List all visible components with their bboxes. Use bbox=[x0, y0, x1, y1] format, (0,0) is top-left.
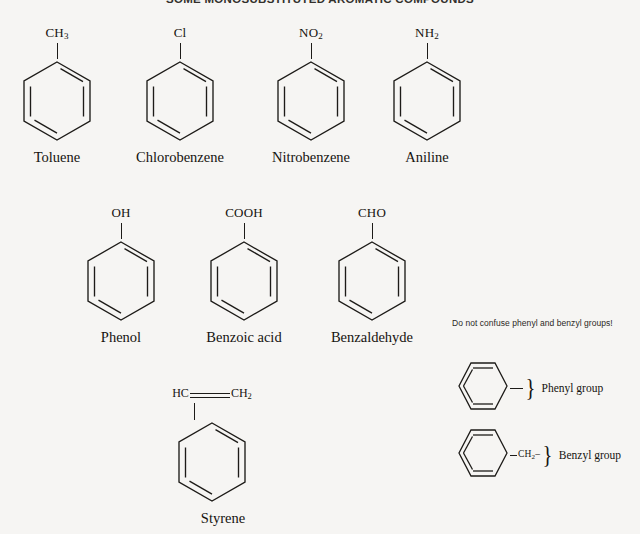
substituent-label-benzaldehyde: CHO bbox=[312, 206, 432, 222]
molecule-toluene: CH3 Toluene bbox=[0, 26, 117, 166]
group-phenyl: } Phenyl group bbox=[456, 361, 603, 415]
benzene-ring-icon bbox=[456, 428, 510, 478]
phenyl-group-label: Phenyl group bbox=[539, 382, 603, 394]
benzene-ring-icon bbox=[275, 59, 347, 143]
molecule-nitrobenzene: NO2 Nitrobenzene bbox=[251, 26, 371, 166]
benzene-ring-styrene bbox=[152, 420, 272, 504]
molecule-name-nitrobenzene: Nitrobenzene bbox=[251, 149, 371, 166]
benzene-ring-icon bbox=[336, 239, 408, 323]
vinyl-group: HC CH2 bbox=[152, 387, 272, 402]
molecule-name-benzoic-acid: Benzoic acid bbox=[184, 329, 304, 346]
benzyl-group-label: Benzyl group bbox=[557, 449, 621, 461]
molecule-benzaldehyde: CHO Benzaldehyde bbox=[312, 206, 432, 346]
bond-stem bbox=[194, 403, 195, 420]
benzene-ring-icon bbox=[456, 361, 510, 411]
phenyl-bond bbox=[510, 388, 523, 389]
molecule-phenol: OH Phenol bbox=[61, 206, 181, 346]
benzene-ring-phenol bbox=[61, 239, 181, 323]
bond-stem bbox=[244, 223, 245, 239]
molecule-name-toluene: Toluene bbox=[0, 149, 117, 166]
molecule-name-styrene: Styrene bbox=[174, 510, 272, 527]
benzene-ring-icon bbox=[21, 59, 93, 143]
substituent-label-aniline: NH2 bbox=[367, 26, 487, 42]
double-bond-icon bbox=[190, 388, 230, 401]
benzyl-ch2-label: CH2– bbox=[517, 449, 540, 461]
groups-warning-note: Do not confuse phenyl and benzyl groups! bbox=[452, 318, 613, 328]
benzene-ring-toluene bbox=[0, 59, 117, 143]
substituent-label-nitrobenzene: NO2 bbox=[251, 26, 371, 42]
benzene-ring-icon bbox=[85, 239, 157, 323]
substituent-label-benzoic-acid: COOH bbox=[184, 206, 304, 222]
substituent-label-phenol: OH bbox=[61, 206, 181, 222]
molecule-name-aniline: Aniline bbox=[367, 149, 487, 166]
bond-stem bbox=[372, 223, 373, 239]
benzene-ring-phenyl bbox=[456, 361, 510, 415]
benzene-ring-icon bbox=[208, 239, 280, 323]
molecule-name-chlorobenzene: Chlorobenzene bbox=[120, 149, 240, 166]
molecule-chlorobenzene: Cl Chlorobenzene bbox=[120, 26, 240, 166]
benzene-ring-icon bbox=[391, 59, 463, 143]
molecule-name-benzaldehyde: Benzaldehyde bbox=[312, 329, 432, 346]
vinyl-left-label: HC bbox=[172, 387, 189, 402]
benzene-ring-nitrobenzene bbox=[251, 59, 371, 143]
benzene-ring-benzoic-acid bbox=[184, 239, 304, 323]
group-benzyl: CH2– } Benzyl group bbox=[456, 428, 621, 482]
benzene-ring-aniline bbox=[367, 59, 487, 143]
bond-stem bbox=[180, 43, 181, 59]
molecule-aniline: NH2 Aniline bbox=[367, 26, 487, 166]
vinyl-right-label: CH2 bbox=[231, 387, 252, 402]
bond-stem bbox=[121, 223, 122, 239]
benzyl-bond bbox=[510, 455, 517, 456]
bond-stem bbox=[57, 43, 58, 59]
diagram-canvas: SOME MONOSUBSTITUTED AROMATIC COMPOUNDS … bbox=[0, 0, 640, 534]
benzene-ring-benzaldehyde bbox=[312, 239, 432, 323]
benzene-ring-icon bbox=[144, 59, 216, 143]
benzene-ring-chlorobenzene bbox=[120, 59, 240, 143]
molecule-styrene: HC CH2 Styrene bbox=[152, 387, 272, 527]
molecule-benzoic-acid: COOH Benzoic acid bbox=[184, 206, 304, 346]
molecule-name-phenol: Phenol bbox=[61, 329, 181, 346]
substituent-label-chlorobenzene: Cl bbox=[120, 26, 240, 42]
benzene-ring-benzyl bbox=[456, 428, 510, 482]
substituent-label-toluene: CH3 bbox=[0, 26, 117, 42]
bond-stem bbox=[427, 43, 428, 59]
benzene-ring-icon bbox=[176, 420, 248, 504]
bond-stem bbox=[311, 43, 312, 59]
page-title: SOME MONOSUBSTITUTED AROMATIC COMPOUNDS bbox=[0, 0, 640, 5]
